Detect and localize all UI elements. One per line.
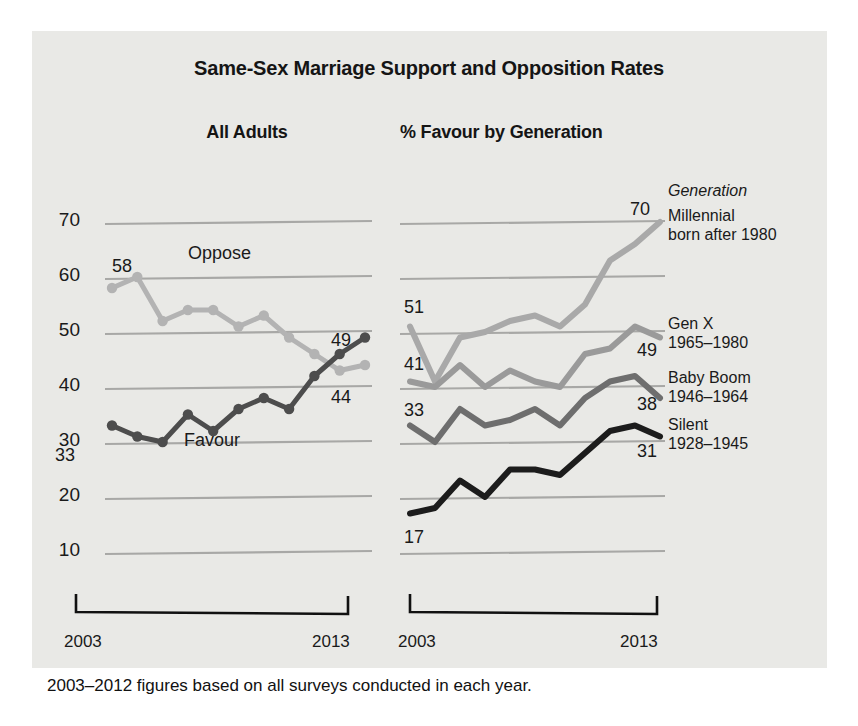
legend-item-silent: Silent 1928–1945 [668,415,748,453]
y-tick-40: 40 [40,374,80,396]
millennial-end-value: 70 [630,199,650,220]
data-point [157,316,167,326]
favour-end-value: 49 [331,330,351,351]
data-point [132,272,142,282]
data-point [233,404,243,414]
y-tick-70: 70 [40,209,80,231]
data-point [157,437,167,447]
legend-item-millennial: Millennial born after 1980 [668,206,777,244]
oppose-end-value: 44 [331,387,351,408]
data-point [360,332,370,342]
favour-series-label: Favour [184,430,240,451]
footnote: 2003–2012 figures based on all surveys c… [47,676,532,696]
gridline-20 [105,496,372,499]
x-axis-bracket [76,594,348,614]
legend-item-genx-years: 1965–1980 [668,333,748,352]
data-point [259,310,269,320]
oppose-start-value: 58 [112,256,132,277]
genx-start-value: 41 [404,354,424,375]
gridline-30 [400,441,665,444]
babyboom-start-value: 33 [404,400,424,421]
gridline-10 [105,551,372,554]
data-point [107,283,117,293]
data-point [335,365,345,375]
legend-header: Generation [668,182,747,200]
legend-item-babyboom: Baby Boom 1946–1964 [668,368,751,406]
gridline-60 [105,276,372,279]
data-point [259,393,269,403]
favour-start-value: 33 [55,445,75,466]
legend-item-silent-name: Silent [668,415,748,434]
data-point [284,332,294,342]
babyboom-end-value: 38 [637,394,657,415]
series-line-millennial [410,222,660,382]
legend-item-millennial-name: Millennial [668,206,777,225]
legend-item-silent-years: 1928–1945 [668,434,748,453]
series-line-favour [112,338,365,443]
chart-figure: Same-Sex Marriage Support and Opposition… [0,0,858,726]
right-axis-year-start: 2003 [398,632,436,652]
data-point [284,404,294,414]
data-point [107,420,117,430]
y-tick-60: 60 [40,264,80,286]
data-point [360,360,370,370]
legend-item-genx-name: Gen X [668,314,748,333]
right-axis-year-end: 2013 [620,632,658,652]
chart-plot-area [0,0,858,726]
gridline-60 [400,276,665,279]
data-point [309,371,319,381]
genx-end-value: 49 [637,340,657,361]
gridline-70 [400,221,665,224]
millennial-start-value: 51 [404,297,424,318]
legend-item-babyboom-years: 1946–1964 [668,387,751,406]
gridline-10 [400,551,665,554]
data-point [183,409,193,419]
data-point [309,349,319,359]
data-point [132,431,142,441]
legend-item-genx: Gen X 1965–1980 [668,314,748,352]
legend-item-babyboom-name: Baby Boom [668,368,751,387]
left-axis-year-start: 2003 [64,632,102,652]
y-tick-10: 10 [40,539,80,561]
data-point [233,321,243,331]
y-tick-20: 20 [40,484,80,506]
data-point [183,305,193,315]
y-tick-50: 50 [40,319,80,341]
silent-end-value: 31 [637,441,657,462]
series-line-silent [410,426,660,514]
gridline-70 [105,221,372,224]
oppose-series-label: Oppose [188,243,251,264]
data-point [208,305,218,315]
legend-item-millennial-years: born after 1980 [668,225,777,244]
x-axis-bracket [410,594,657,614]
silent-start-value: 17 [404,527,424,548]
left-axis-year-end: 2013 [312,632,350,652]
